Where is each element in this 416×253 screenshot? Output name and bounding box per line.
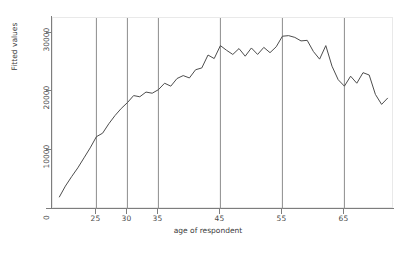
chart-figure: Fitted values 0 10000 20000 30000 25 30 … [0, 0, 416, 253]
y-tick-label-1: 10000 [42, 149, 51, 169]
y-tick-label-3: 30000 [42, 31, 51, 51]
x-tick-label-2: 35 [142, 214, 172, 223]
y-tick-label-2: 20000 [42, 90, 51, 110]
fitted-values-line [59, 36, 388, 198]
y-axis-title: Fitted values [10, 59, 19, 71]
x-tick-label-3: 45 [204, 214, 234, 223]
y-tick-label-0: 0 [42, 208, 51, 228]
plot-area [52, 17, 393, 208]
x-tick-label-5: 65 [328, 214, 358, 223]
x-tick-label-0: 25 [80, 214, 110, 223]
x-axis-title: age of respondent [0, 226, 416, 235]
plot-svg [53, 18, 394, 209]
x-tick-label-4: 55 [266, 214, 296, 223]
x-tick-label-1: 30 [111, 214, 141, 223]
